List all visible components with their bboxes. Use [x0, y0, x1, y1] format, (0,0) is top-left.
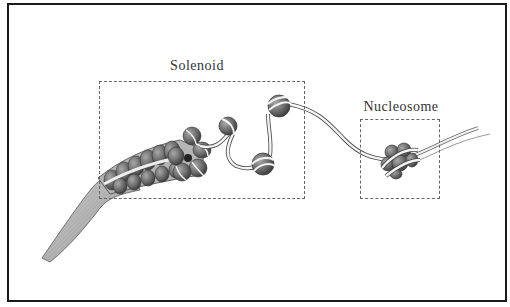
nucleosome-dashed-box [360, 119, 440, 199]
solenoid-dashed-box [99, 81, 305, 199]
solenoid-label: Solenoid [170, 58, 224, 74]
nucleosome-label: Nucleosome [364, 99, 439, 115]
